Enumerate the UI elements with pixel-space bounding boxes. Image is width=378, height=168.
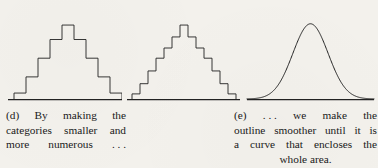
histogram-coarse-chart: [2, 0, 122, 106]
caption-line: (d)Bymakingthe: [6, 108, 126, 123]
caption-word: the: [363, 137, 377, 152]
caption-word: a: [234, 137, 239, 152]
caption-word: By: [34, 108, 47, 123]
caption-line: morenumerous. . .: [6, 137, 126, 152]
caption-word: that: [286, 137, 303, 152]
figure-plot-area: [0, 0, 378, 106]
caption-word: smaller: [64, 123, 97, 138]
caption-word: whole: [279, 152, 307, 167]
caption-word: (e): [234, 108, 247, 123]
caption-word: the: [112, 108, 126, 123]
caption-e: (e). . .wemaketheoutlinesmootheruntiliti…: [234, 108, 377, 166]
caption-word: we: [293, 108, 306, 123]
caption-line: outlinesmootheruntilitis: [234, 123, 377, 138]
caption-word: numerous: [48, 137, 93, 152]
caption-word: (d): [6, 108, 19, 123]
caption-word: is: [369, 123, 377, 138]
caption-word: it: [354, 123, 360, 138]
caption-word: the: [363, 108, 377, 123]
caption-word: make: [322, 108, 346, 123]
caption-line: acurvethatenclosesthe: [234, 137, 377, 152]
panel-histogram-coarse: [2, 0, 122, 106]
panel-bell-curve: [243, 0, 378, 106]
caption-word: until: [325, 123, 346, 138]
caption-line: (e). . .wemakethe: [234, 108, 377, 123]
caption-word: . . .: [112, 137, 126, 152]
caption-word: making: [63, 108, 97, 123]
caption-word: categories: [6, 123, 52, 138]
histogram-fine-chart: [125, 0, 240, 106]
caption-word: more: [6, 137, 29, 152]
caption-word: curve: [250, 137, 275, 152]
bell-curve-chart: [243, 0, 378, 106]
caption-word: and: [110, 123, 126, 138]
captions-area: (d)Bymakingthecategoriessmallerandmorenu…: [0, 105, 378, 168]
figure-page: (d)Bymakingthecategoriessmallerandmorenu…: [0, 0, 378, 168]
caption-word: area.: [310, 152, 332, 167]
caption-word: encloses: [314, 137, 352, 152]
caption-word: smoother: [274, 123, 316, 138]
caption-word: outline: [234, 123, 265, 138]
caption-word: . . .: [263, 108, 277, 123]
caption-line: categoriessmallerand: [6, 123, 126, 138]
caption-d: (d)Bymakingthecategoriessmallerandmorenu…: [6, 108, 126, 152]
panel-histogram-fine: [125, 0, 240, 106]
caption-line: whole area.: [234, 152, 377, 167]
